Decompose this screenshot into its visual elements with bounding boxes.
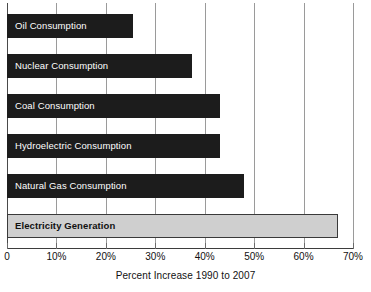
x-tick-20% xyxy=(106,243,107,249)
gridline-60% xyxy=(304,3,305,248)
gridline-70% xyxy=(353,3,354,248)
bar-row: Coal Consumption xyxy=(7,94,353,118)
bar-label-nuclear-consumption: Nuclear Consumption xyxy=(15,54,108,78)
bar-row: Electricity Generation xyxy=(7,214,353,238)
gridline-30% xyxy=(155,3,156,248)
x-tick-0 xyxy=(7,243,8,249)
bar-label-hydroelectric-consumption: Hydroelectric Consumption xyxy=(15,134,132,158)
y-axis-line xyxy=(7,3,8,248)
gridline-10% xyxy=(56,3,57,248)
x-tick-60% xyxy=(304,243,305,249)
x-tick-30% xyxy=(155,243,156,249)
bar-row: Hydroelectric Consumption xyxy=(7,134,353,158)
bar-label-oil-consumption: Oil Consumption xyxy=(15,14,87,38)
x-axis-title: Percent Increase 1990 to 2007 xyxy=(0,270,371,281)
bar-label-electricity-generation: Electricity Generation xyxy=(15,214,115,238)
x-tick-40% xyxy=(205,243,206,249)
x-tick-label-0: 0 xyxy=(4,251,10,262)
bar-row: Nuclear Consumption xyxy=(7,54,353,78)
x-tick-label-10%: 10% xyxy=(46,251,66,262)
x-tick-label-60%: 60% xyxy=(294,251,314,262)
x-tick-label-20%: 20% xyxy=(96,251,116,262)
x-tick-label-50%: 50% xyxy=(244,251,264,262)
bar-chart: Oil ConsumptionNuclear ConsumptionCoal C… xyxy=(0,0,371,292)
x-tick-50% xyxy=(254,243,255,249)
gridline-50% xyxy=(254,3,255,248)
x-tick-label-40%: 40% xyxy=(195,251,215,262)
bar-row: Natural Gas Consumption xyxy=(7,174,353,198)
x-tick-10% xyxy=(56,243,57,249)
bar-row: Oil Consumption xyxy=(7,14,353,38)
x-tick-label-70%: 70% xyxy=(343,251,363,262)
gridline-20% xyxy=(106,3,107,248)
x-tick-label-30%: 30% xyxy=(145,251,165,262)
gridline-40% xyxy=(205,3,206,248)
bar-label-natural-gas-consumption: Natural Gas Consumption xyxy=(15,174,127,198)
plot-area: Oil ConsumptionNuclear ConsumptionCoal C… xyxy=(7,3,353,248)
bar-label-coal-consumption: Coal Consumption xyxy=(15,94,95,118)
x-axis-line xyxy=(7,248,354,249)
x-tick-70% xyxy=(353,243,354,249)
